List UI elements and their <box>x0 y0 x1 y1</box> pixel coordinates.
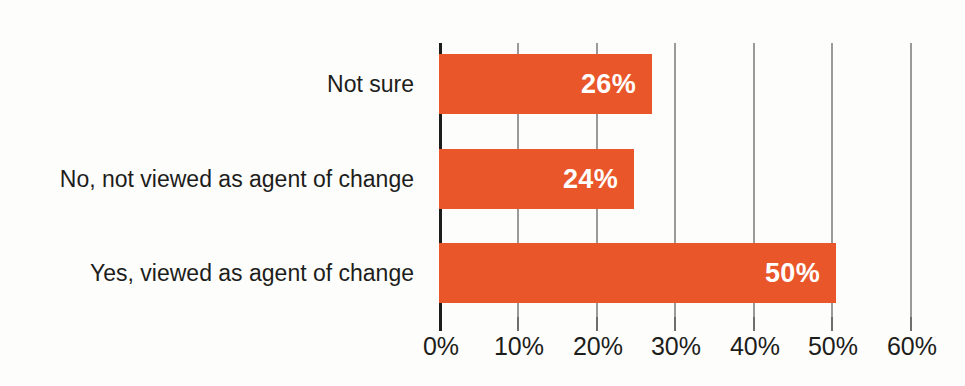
bar-row: 24% <box>439 149 634 209</box>
bar-value-label: 24% <box>563 166 618 193</box>
category-label-row-0: Not sure <box>0 54 414 114</box>
tick-mark-50-percent <box>831 317 833 331</box>
category-label: Yes, viewed as agent of change <box>0 262 414 285</box>
x-tick-label: 20% <box>558 334 638 359</box>
bar-chart: Not sure No, not viewed as agent of chan… <box>0 0 965 386</box>
bar-row: 26% <box>439 54 652 114</box>
x-tick-label: 0% <box>401 334 481 359</box>
tick-mark-10-percent <box>517 317 519 331</box>
bar-no-not-viewed[interactable]: 24% <box>439 149 634 209</box>
bar-row: 50% <box>439 243 836 303</box>
tick-mark-20-percent <box>596 317 598 331</box>
bar-not-sure[interactable]: 26% <box>439 54 652 114</box>
tick-mark-0-percent <box>439 317 442 331</box>
tick-mark-40-percent <box>753 317 755 331</box>
bar-yes-viewed[interactable]: 50% <box>439 243 836 303</box>
category-label-row-1: No, not viewed as agent of change <box>0 149 414 209</box>
tick-mark-30-percent <box>674 317 676 331</box>
category-label-row-2: Yes, viewed as agent of change <box>0 243 414 303</box>
category-label: No, not viewed as agent of change <box>0 168 414 191</box>
x-tick-label: 40% <box>715 334 795 359</box>
x-tick-label: 30% <box>636 334 716 359</box>
bar-value-label: 26% <box>581 71 636 98</box>
x-tick-label: 50% <box>793 334 873 359</box>
gridline-60-percent <box>910 43 912 317</box>
bar-value-label: 50% <box>765 260 820 287</box>
x-tick-label: 10% <box>479 334 559 359</box>
tick-mark-60-percent <box>910 317 912 331</box>
category-label: Not sure <box>0 73 414 96</box>
x-tick-label: 60% <box>872 334 952 359</box>
